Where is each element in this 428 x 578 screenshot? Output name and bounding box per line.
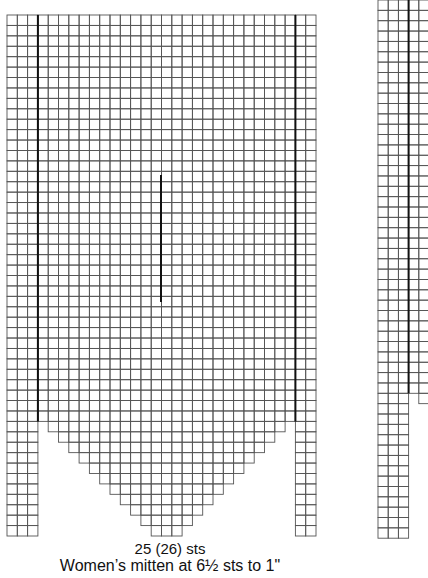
stitch-count-caption: 25 (26) sts <box>0 540 340 557</box>
mitten-chart-figure: 25 (26) sts Women’s mitten at 6½ sts to … <box>0 0 428 578</box>
gauge-caption: Women’s mitten at 6½ sts to 1" <box>0 557 340 575</box>
knitting-grid <box>0 0 428 578</box>
